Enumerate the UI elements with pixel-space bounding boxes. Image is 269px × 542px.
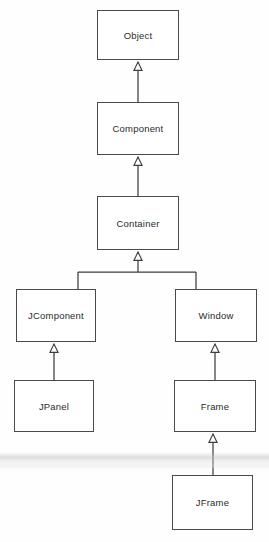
class-box-jframe[interactable]: JFrame [172,475,253,530]
class-name-label: JPanel [39,401,69,412]
class-name-label: Container [117,218,160,229]
class-box-window[interactable]: Window [175,289,257,342]
class-box-container[interactable]: Container [97,196,179,250]
class-box-frame[interactable]: Frame [174,380,256,432]
class-name-label: Object [124,30,153,41]
uml-class-diagram: Object Component Container JComponent Wi… [0,0,269,542]
class-name-label: Frame [201,401,229,412]
class-box-jcomponent[interactable]: JComponent [16,289,96,342]
class-name-label: Component [113,123,164,134]
class-box-component[interactable]: Component [97,102,179,155]
class-name-label: Window [199,310,234,321]
connector-layer [0,0,269,542]
class-box-object[interactable]: Object [97,10,179,60]
class-name-label: JComponent [28,310,84,321]
class-name-label: JFrame [196,497,229,508]
class-box-jpanel[interactable]: JPanel [14,380,94,432]
